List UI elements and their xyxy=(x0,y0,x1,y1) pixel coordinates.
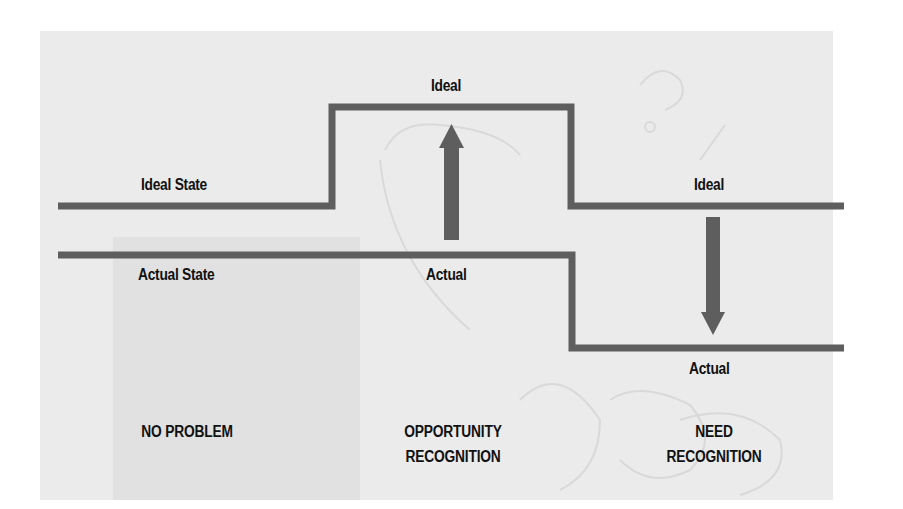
right-actual-label: Actual xyxy=(689,360,730,378)
caption-line-1: NO PROBLEM xyxy=(123,419,252,444)
no-problem-caption: NO PROBLEM xyxy=(123,419,252,444)
caption-line-2: RECOGNITION xyxy=(389,444,518,469)
middle-actual-label: Actual xyxy=(426,266,467,284)
caption-line-1: NEED xyxy=(650,419,779,444)
caption-line-2: RECOGNITION xyxy=(650,444,779,469)
right-ideal-label: Ideal xyxy=(694,176,724,194)
actual-state-label: Actual State xyxy=(138,266,214,284)
up-arrow-icon xyxy=(439,124,464,240)
middle-ideal-label: Ideal xyxy=(431,77,461,95)
down-arrow-icon xyxy=(701,217,725,335)
need-recognition-caption: NEED RECOGNITION xyxy=(650,419,779,469)
ideal-state-label: Ideal State xyxy=(141,176,207,194)
opportunity-recognition-caption: OPPORTUNITY RECOGNITION xyxy=(389,419,518,469)
caption-line-1: OPPORTUNITY xyxy=(389,419,518,444)
